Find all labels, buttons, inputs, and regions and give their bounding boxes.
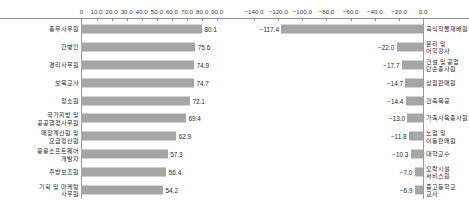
chart-bar [409,132,423,141]
bar-category-label: 경리사무원 [13,61,79,68]
axis-tick-label: 30.0 [121,8,133,15]
right-chart-panel: −140.0−120.0−100.0−80.0−60.0−40.0−20.00.… [234,0,469,207]
chart-bar-row: 대학교수−10.3 [234,145,469,163]
bar-category-label: 곡식작물재배원 [426,25,469,32]
bar-value-label: −7.0 [400,169,413,176]
bar-value-label: 80.1 [205,25,217,32]
bar-value-label: −14.7 [387,79,403,86]
chart-bar [81,78,194,87]
bar-category-label: 주방보조원 [13,169,79,176]
bar-value-label: 74.7 [196,79,208,86]
bar-category-label: 가축사육종사원 [426,115,469,122]
chart-bar-row: 노점 및 이동판매원−11.8 [234,127,469,145]
chart-bar-row: 상점판매원−14.7 [234,74,469,92]
bar-value-label: 69.4 [188,115,200,122]
chart-bar [402,60,423,69]
bar-value-label: −17.7 [383,61,399,68]
bar-value-label: −22.0 [378,43,394,50]
axis-tick-label: 10.0 [90,8,102,15]
bar-category-label: 총무사무원 [13,25,79,32]
chart-bar-row: 응용소프트웨어 개발자57.3 [0,145,234,163]
axis-tick-label: 80.0 [196,8,208,15]
chart-bar-row: 경리사무원74.9 [0,56,234,74]
chart-bar [81,96,190,105]
axis-tick-label: 50.0 [151,8,163,15]
axis-tick-label: −60.0 [343,8,359,15]
chart-bar [81,168,166,177]
axis-tick-label: 70.0 [181,8,193,15]
axis-tick-label: −40.0 [367,8,383,15]
chart-bar [81,42,195,51]
chart-bar-row: 건축목공−14.4 [234,92,469,110]
chart-bar-row: 곡식작물재배원−117.4 [234,20,469,38]
chart-bar-row: 간병인75.6 [0,38,234,56]
chart-bar-row: 중고등학교 교사−6.9 [234,181,469,199]
bar-value-label: 54.2 [166,187,178,194]
chart-bar [415,168,423,177]
chart-bar-row: 매장계산원 및 요금정산원62.9 [0,127,234,145]
axis-tick-label: 0.0 [419,8,428,15]
left-chart-plot-area: 총무사무원80.1간병인75.6경리사무원74.9보육교사74.7청소원72.1… [0,20,234,199]
axis-tick-label: −140.0 [244,8,263,15]
chart-bar [405,78,423,87]
bar-category-label: 건축목공 [426,97,469,104]
bar-category-label: 청소원 [13,97,79,104]
chart-bar [81,186,163,195]
chart-bar-row: 주방보조원56.4 [0,163,234,181]
bar-value-label: −11.8 [391,133,407,140]
chart-bar-row: 총무사무원80.1 [0,20,234,38]
bar-category-label: 응용소프트웨어 개발자 [13,147,79,161]
axis-tick-label: −80.0 [319,8,335,15]
axis-tick-label: 90.0 [211,8,223,15]
left-chart-bar-rows: 총무사무원80.1간병인75.6경리사무원74.9보육교사74.7청소원72.1… [0,20,234,199]
right-chart-plot-area: 곡식작물재배원−117.4문리 및 어학강사−22.0건설 및 공업 단순종사원… [234,20,469,199]
chart-bar-row: 국가지방 및 공공행정사무원69.4 [0,110,234,128]
bar-value-label: 72.1 [192,97,204,104]
chart-bar [415,186,423,195]
bar-category-label: 국가지방 및 공공행정사무원 [13,111,79,125]
chart-bar [406,96,423,105]
chart-bar [411,150,423,159]
bar-category-label: 매장계산원 및 요금정산원 [13,129,79,143]
chart-bar [81,60,194,69]
chart-bar [407,114,423,123]
bar-value-label: −6.9 [400,187,413,194]
bar-value-label: 62.9 [179,133,191,140]
bar-value-label: 75.6 [198,43,210,50]
chart-bar-row: 가축사육종사원−13.0 [234,110,469,128]
bar-value-label: −13.0 [389,115,405,122]
axis-tick-label: 20.0 [106,8,118,15]
bar-category-label: 문리 및 어학강사 [426,40,469,54]
chart-bar-row: 건설 및 공업 단순종사원−17.7 [234,56,469,74]
bar-value-label: −117.4 [260,25,279,32]
bar-value-label: −10.3 [392,151,408,158]
bar-category-label: 오락시설 서비스원 [426,165,469,179]
bar-category-label: 상점판매원 [426,79,469,86]
axis-tick-label: 40.0 [136,8,148,15]
axis-tick-label: 0 [80,8,83,15]
chart-bar-row: 청소원72.1 [0,92,234,110]
bar-category-label: 건설 및 공업 단순종사원 [426,58,469,72]
chart-bar [397,42,424,51]
right-chart-bar-rows: 곡식작물재배원−117.4문리 및 어학강사−22.0건설 및 공업 단순종사원… [234,20,469,199]
chart-bar [81,150,167,159]
axis-tick-label: 60.0 [166,8,178,15]
bar-category-label: 노점 및 이동판매원 [426,129,469,143]
chart-bar-row: 문리 및 어학강사−22.0 [234,38,469,56]
bar-category-label: 기획 및 마케팅 사무원 [13,183,79,197]
bar-category-label: 보육교사 [13,79,79,86]
chart-bar-row: 오락시설 서비스원−7.0 [234,163,469,181]
left-chart-panel: 010.020.030.040.050.060.070.080.090.0 총무… [0,0,234,207]
chart-bar-row: 기획 및 마케팅 사무원54.2 [0,181,234,199]
axis-tick-label: −120.0 [269,8,288,15]
bar-category-label: 중고등학교 교사 [426,183,469,197]
chart-bar [281,24,423,33]
bar-value-label: −14.4 [387,97,403,104]
bar-category-label: 간병인 [13,43,79,50]
chart-bar [81,24,202,33]
chart-bar-row: 보육교사74.7 [0,74,234,92]
bar-value-label: 74.9 [197,61,209,68]
axis-tick-label: −100.0 [293,8,312,15]
chart-bar [81,132,176,141]
bar-value-label: 56.4 [169,169,181,176]
